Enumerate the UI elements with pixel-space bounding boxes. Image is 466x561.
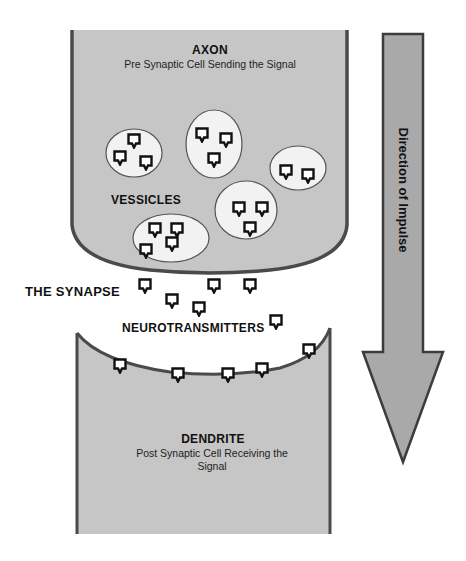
axon-subtitle: Pre Synaptic Cell Sending the Signal: [124, 58, 296, 71]
vesicles-label: VESSICLES: [111, 193, 181, 207]
vesicle: [106, 129, 162, 177]
vesicle: [215, 181, 277, 239]
neurotransmitter-icon: [140, 280, 151, 293]
neurotransmitter-icon: [167, 295, 178, 308]
direction-of-impulse-label: Direction of Impulse: [396, 128, 411, 253]
vesicle: [270, 146, 326, 190]
dendrite-subtitle-line2: Signal: [197, 460, 226, 473]
neurotransmitters-label: NEUROTRANSMITTERS: [122, 321, 264, 335]
synapse-diagram: [0, 0, 466, 561]
synapse-label: THE SYNAPSE: [25, 284, 120, 299]
vesicle: [186, 110, 242, 178]
neurotransmitter-icon: [245, 280, 256, 293]
neurotransmitter-icon: [194, 303, 205, 316]
vesicle: [133, 214, 209, 262]
neurotransmitter-icon: [209, 280, 220, 293]
neurotransmitter-icon: [271, 316, 282, 329]
dendrite-title: DENDRITE: [181, 432, 245, 446]
axon-title: AXON: [192, 43, 228, 57]
dendrite-subtitle-line1: Post Synaptic Cell Receiving the: [136, 447, 288, 460]
